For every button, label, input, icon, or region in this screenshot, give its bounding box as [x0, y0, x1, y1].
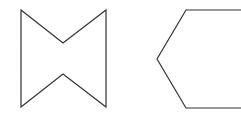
hexagon-shape [157, 10, 241, 108]
bowtie-shape [21, 10, 106, 107]
diagram-canvas [0, 0, 241, 114]
shapes-svg [0, 0, 241, 114]
